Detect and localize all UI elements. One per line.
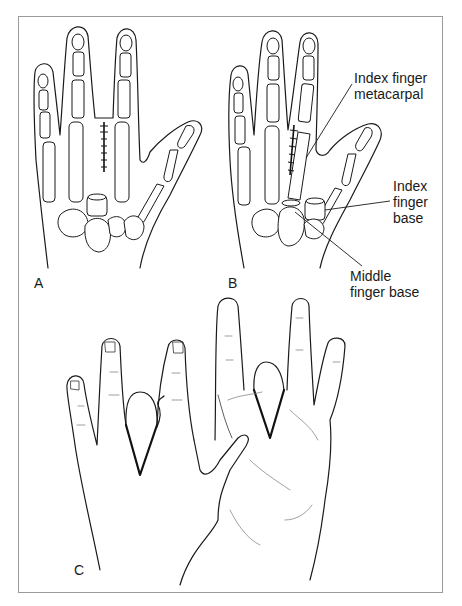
panel-a-hand	[34, 27, 202, 268]
panel-label-a: A	[34, 276, 43, 290]
annotation-middle-finger-base: Middle finger base	[350, 268, 419, 300]
panel-c-hands	[67, 298, 345, 585]
annotation-line: finger	[393, 194, 428, 210]
annotation-index-finger-base: Index finger base	[393, 178, 428, 226]
annotation-line: metacarpal	[354, 86, 427, 102]
leader-middle-base	[295, 212, 362, 266]
annotation-line: Middle	[350, 268, 419, 284]
annotation-line: Index	[393, 178, 428, 194]
suture-line	[100, 122, 108, 172]
annotation-index-metacarpal: Index finger metacarpal	[354, 70, 427, 102]
annotation-line: finger base	[350, 284, 419, 300]
annotation-line: base	[393, 210, 428, 226]
panel-label-c: C	[74, 563, 84, 577]
annotation-line: Index finger	[354, 70, 427, 86]
panel-b-hand	[229, 31, 390, 268]
panel-label-b: B	[228, 276, 237, 290]
